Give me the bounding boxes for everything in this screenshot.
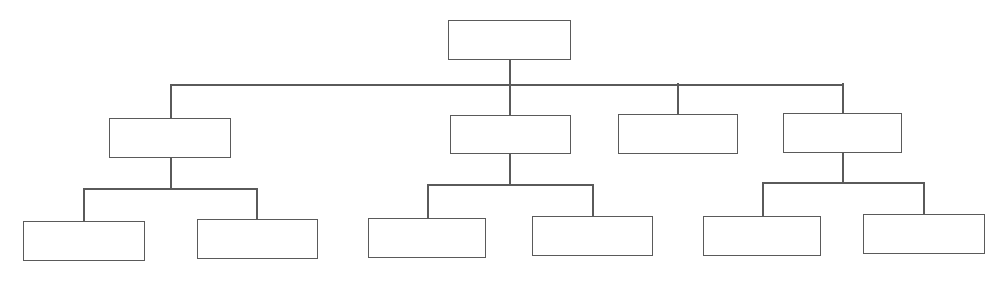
node-box-l3-d1 [703, 216, 821, 256]
connector-line [592, 184, 594, 216]
node-box-l2-a [109, 118, 231, 158]
node-box-l3-a1 [23, 221, 145, 261]
connector-line [83, 188, 85, 221]
node-box-root [448, 20, 571, 60]
connector-line [509, 154, 511, 185]
node-box-l3-d2 [863, 214, 985, 254]
node-box-l3-b2 [532, 216, 653, 256]
connector-line [677, 83, 679, 114]
connector-line [83, 188, 258, 190]
connector-line [509, 84, 511, 115]
connector-line [427, 184, 429, 218]
connector-line [842, 153, 844, 183]
node-box-l2-c [618, 114, 738, 154]
connector-line [762, 182, 925, 184]
connector-line [509, 60, 511, 85]
org-chart-diagram [0, 0, 1008, 283]
connector-line [842, 83, 844, 113]
node-box-l3-a2 [197, 219, 318, 259]
connector-line [170, 158, 172, 189]
node-box-l2-d [783, 113, 902, 153]
node-box-l2-b [450, 115, 571, 154]
connector-line [170, 84, 172, 118]
connector-line [256, 188, 258, 219]
connector-line [427, 184, 594, 186]
connector-line [923, 182, 925, 214]
connector-line [762, 182, 764, 216]
node-box-l3-b1 [368, 218, 486, 258]
connector-line [170, 84, 844, 86]
